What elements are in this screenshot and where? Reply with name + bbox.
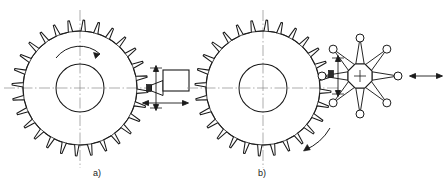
centerlines-a (4, 10, 152, 168)
cutter-horizontal-feed-arrow-b (410, 74, 443, 79)
form-tool-a (147, 70, 190, 96)
cutter-tooth-tip (356, 34, 364, 42)
cutter-tooth-tip (394, 72, 402, 80)
gear-rotation-arrow-b (304, 128, 331, 151)
cutter-tooth-tip (383, 99, 391, 107)
tool-shank-a (152, 81, 164, 96)
cutter-tooth-tip (383, 45, 391, 53)
cutter-tooth-tip (318, 72, 326, 80)
cutter-tooth-tip (329, 45, 337, 53)
panel-b: b) (187, 10, 443, 178)
tool-body-a (163, 70, 189, 91)
cutter-contact-block-b (329, 71, 334, 78)
panel-label-a: a) (93, 168, 101, 178)
centerlines-b (187, 10, 340, 168)
panel-label-b: b) (258, 168, 266, 178)
cutter-tooth-tip (329, 99, 337, 107)
panel-a: a) (4, 10, 189, 178)
tool-horizontal-feed-arrow-a (143, 101, 189, 106)
gear-machining-diagram: a) (0, 0, 445, 188)
diagram-canvas: a) (0, 0, 445, 188)
cutter-tooth-tip (356, 110, 364, 118)
tool-tip-a (147, 85, 152, 92)
gear-rotation-arrow-a (56, 46, 100, 58)
